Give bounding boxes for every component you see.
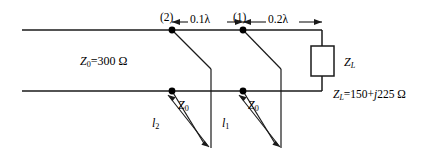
stub1-length-dimension-arrow [239, 95, 280, 147]
figure-canvas: (2) (1) 0.1λ 0.2λ Z0=300 Ω ZL ZL=150+j22… [0, 0, 442, 153]
load-impedance-value-label: ZL=150+j225 Ω [333, 89, 406, 102]
stub2-impedance-label: Z0 [178, 99, 189, 113]
dimension-label-0p2-lambda: 0.2λ [268, 14, 288, 26]
main-line-impedance-label: Z0=300 Ω [80, 55, 127, 69]
stub2-impedance-symbol: Z [178, 98, 185, 112]
main-line-impedance-symbol: Z [80, 54, 87, 68]
stub1-impedance-subscript: 0 [255, 104, 259, 113]
stub1-length-subscript: 1 [225, 122, 229, 131]
stub2-upper-diagonal-conductor [172, 30, 211, 69]
junction-dot-node1-top [240, 27, 247, 34]
stub2-impedance-subscript: 0 [185, 104, 189, 113]
stub1-impedance-symbol: Z [248, 98, 255, 112]
stub1-impedance-label: Z0 [248, 99, 259, 113]
load-impedance-box-label: ZL [344, 56, 355, 70]
load-value-reactance: 225 Ω [377, 88, 406, 100]
load-box-subscript: L [351, 61, 356, 70]
junction-dot-node2-top [169, 27, 176, 34]
node-label-2: (2) [160, 12, 173, 24]
stub2-length-subscript: 2 [155, 122, 159, 131]
junction-dot-node1-bottom [240, 88, 247, 95]
transmission-line-diagram [0, 0, 442, 153]
stub2-length-label: l2 [152, 117, 159, 131]
junction-dot-node2-bottom [169, 88, 176, 95]
load-impedance-box [311, 46, 334, 76]
dimension-label-0p1-lambda: 0.1λ [190, 14, 210, 26]
load-box-symbol: Z [344, 55, 351, 69]
load-value-equals: =150+ [344, 88, 374, 100]
node-label-1: (1) [233, 12, 246, 24]
stub1-length-label: l1 [222, 117, 229, 131]
stub1-upper-diagonal-conductor [243, 30, 281, 69]
main-line-impedance-value: =300 Ω [91, 54, 128, 68]
